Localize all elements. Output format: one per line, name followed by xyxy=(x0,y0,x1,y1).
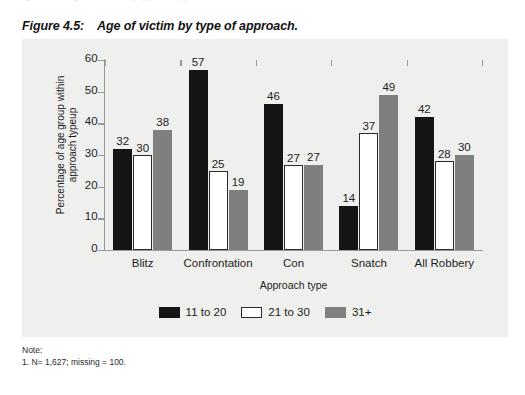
bar-value-label: 49 xyxy=(382,81,395,93)
bar[interactable]: 46 xyxy=(264,104,283,250)
bar[interactable]: 28 xyxy=(435,161,454,250)
legend-swatch-icon xyxy=(159,307,180,318)
bar[interactable]: 30 xyxy=(133,155,152,250)
bar-value-label: 25 xyxy=(212,158,225,170)
y-axis-tick-label: 50 xyxy=(85,84,98,96)
y-axis-tick-label: 60 xyxy=(85,52,98,64)
y-axis-tick: 50 xyxy=(98,92,105,93)
x-axis-title: Approach type xyxy=(105,279,482,291)
plot-area: 0102030405060323038Blitz572519Confrontat… xyxy=(105,60,482,250)
legend-label: 21 to 30 xyxy=(268,306,310,318)
x-axis-line xyxy=(104,250,483,251)
bar-value-label: 19 xyxy=(232,176,245,188)
legend-label: 31+ xyxy=(352,306,372,318)
y-axis-title-line2: approach typeup xyxy=(67,76,80,214)
notes-line-1: 1. N= 1,627; missing = 100. xyxy=(22,357,126,369)
bar[interactable]: 32 xyxy=(113,149,132,250)
figure-number: Figure 4.5: xyxy=(22,19,84,33)
figure-caption: Figure 4.5:Age of victim by type of appr… xyxy=(22,19,298,33)
x-axis-category-label: Blitz xyxy=(132,257,154,269)
bar-value-label: 27 xyxy=(287,152,300,164)
bar[interactable]: 27 xyxy=(284,165,303,251)
legend-swatch-icon xyxy=(241,307,262,318)
y-axis-tick-label: 0 xyxy=(91,242,97,254)
x-axis-category-label: Confrontation xyxy=(184,257,253,269)
bar-value-label: 14 xyxy=(342,192,355,204)
bar[interactable]: 27 xyxy=(304,165,323,251)
bar-group: 143749Snatch xyxy=(331,60,406,250)
y-axis-tick: 10 xyxy=(98,218,105,219)
bar[interactable]: 25 xyxy=(209,171,228,250)
y-axis-tick-label: 10 xyxy=(85,210,98,222)
bleed-caption-text: Figure 4.4: Age of victim by type of app… xyxy=(18,0,217,1)
figure-notes: Note: 1. N= 1,627; missing = 100. xyxy=(22,345,126,368)
bar[interactable]: 37 xyxy=(359,133,378,250)
bar-value-label: 57 xyxy=(192,56,205,68)
chart-legend: 11 to 2021 to 3031+ xyxy=(22,306,508,318)
bar-value-label: 28 xyxy=(438,148,451,160)
y-axis-tick-label: 20 xyxy=(85,179,98,191)
bar-value-label: 38 xyxy=(156,116,169,128)
x-axis-tick xyxy=(482,60,483,66)
bar-value-label: 46 xyxy=(267,90,280,102)
bar[interactable]: 14 xyxy=(339,206,358,250)
y-axis-tick-label: 40 xyxy=(85,115,98,127)
y-axis-tick: 60 xyxy=(98,60,105,61)
bar-group: 422830All Robbery xyxy=(407,60,482,250)
bar-value-label: 30 xyxy=(136,142,149,154)
bar-group: 462727Con xyxy=(256,60,331,250)
bar-value-label: 42 xyxy=(418,103,431,115)
bar[interactable]: 49 xyxy=(379,95,398,250)
bar[interactable]: 19 xyxy=(229,190,248,250)
bar[interactable]: 30 xyxy=(455,155,474,250)
x-axis-category-label: Snatch xyxy=(351,257,387,269)
bar-group: 323038Blitz xyxy=(105,60,180,250)
bar-group: 572519Confrontation xyxy=(180,60,255,250)
chart-panel: Percentage of age group within approach … xyxy=(22,39,508,337)
legend-swatch-icon xyxy=(325,307,346,318)
y-axis-tick: 20 xyxy=(98,187,105,188)
notes-heading: Note: xyxy=(22,345,126,357)
y-axis-tick: 0 xyxy=(98,250,105,251)
bar-value-label: 32 xyxy=(116,135,129,147)
x-axis-category-label: Con xyxy=(283,257,304,269)
bar-value-label: 37 xyxy=(362,120,375,132)
y-axis-tick: 40 xyxy=(98,123,105,124)
figure-title: Age of victim by type of approach. xyxy=(97,19,298,33)
page-bleed-strip: Figure 4.4: Age of victim by type of app… xyxy=(0,0,525,11)
bar[interactable]: 57 xyxy=(189,70,208,251)
bar[interactable]: 42 xyxy=(415,117,434,250)
bar-value-label: 27 xyxy=(307,151,320,163)
y-axis-title-line1: Percentage of age group within xyxy=(55,76,68,214)
y-axis-tick-label: 30 xyxy=(85,147,98,159)
bar-value-label: 30 xyxy=(458,141,471,153)
bar[interactable]: 38 xyxy=(153,130,172,250)
legend-label: 11 to 20 xyxy=(186,306,227,318)
legend-entry[interactable]: 21 to 30 xyxy=(241,306,310,318)
x-axis-category-label: All Robbery xyxy=(415,257,474,269)
y-axis-tick: 30 xyxy=(98,155,105,156)
legend-entry[interactable]: 31+ xyxy=(325,306,372,318)
legend-entry[interactable]: 11 to 20 xyxy=(159,306,227,318)
